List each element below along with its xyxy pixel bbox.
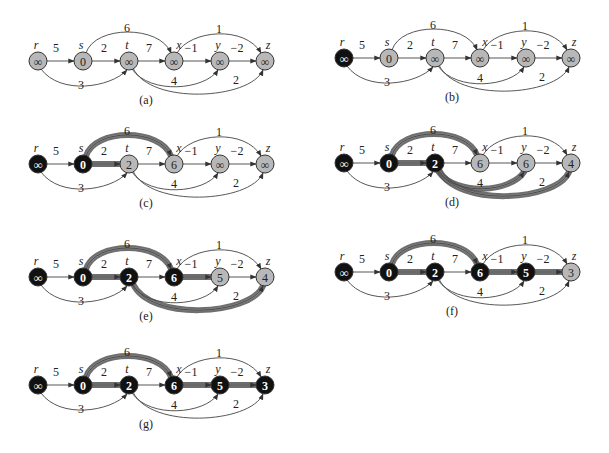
panel-caption: (g) xyxy=(139,417,153,431)
node-r-distance: ∞ xyxy=(340,157,349,171)
node-t-distance: 2 xyxy=(432,266,438,280)
node-z-label: z xyxy=(571,140,577,154)
edge-weight-r-t: 3 xyxy=(384,75,390,89)
edge-weight-t-z: 2 xyxy=(233,176,239,190)
node-s-label: s xyxy=(385,249,390,263)
shaded-edge-highlight xyxy=(133,284,263,310)
node-s-distance: 0 xyxy=(80,379,86,393)
edge-weight-t-x: 7 xyxy=(452,38,458,52)
node-r-distance: ∞ xyxy=(340,52,349,66)
panel-caption: (f) xyxy=(446,304,458,318)
node-z-distance: 3 xyxy=(262,379,268,393)
node-s-label: s xyxy=(79,141,84,155)
node-z-distance: 3 xyxy=(568,266,574,280)
node-y-label: y xyxy=(520,35,527,49)
edge-r-t xyxy=(41,393,127,410)
edge-weight-t-y: 4 xyxy=(477,285,483,299)
node-r-label: r xyxy=(34,141,39,155)
edge-weight-s-t: 2 xyxy=(407,252,413,266)
node-s-label: s xyxy=(79,362,84,376)
node-x-label: x xyxy=(175,254,182,268)
dag-shortest-paths-figure: 5326742−11−2∞r0s∞t∞x∞y∞z(a)5326742−11−2∞… xyxy=(0,0,609,453)
node-x-label: x xyxy=(175,38,182,52)
node-t-distance: 2 xyxy=(432,157,438,171)
node-x-distance: ∞ xyxy=(170,55,179,69)
node-r-label: r xyxy=(34,362,39,376)
edge-r-t xyxy=(347,171,433,188)
edge-weight-s-t: 2 xyxy=(101,41,107,55)
node-t-distance: 2 xyxy=(126,271,132,285)
panel-caption: (e) xyxy=(139,309,152,323)
edge-weight-y-z: −2 xyxy=(231,41,244,55)
node-r-distance: ∞ xyxy=(34,271,43,285)
edge-weight-r-s: 5 xyxy=(53,144,59,158)
edge-weight-t-x: 7 xyxy=(146,144,152,158)
panel-caption: (c) xyxy=(139,196,152,210)
node-r-label: r xyxy=(340,140,345,154)
edge-weight-y-z: −2 xyxy=(231,144,244,158)
edge-weight-x-z: 1 xyxy=(522,233,528,247)
shaded-edge-t-z xyxy=(133,284,263,310)
node-y-label: y xyxy=(520,249,527,263)
node-x-label: x xyxy=(481,35,488,49)
node-z-label: z xyxy=(265,38,271,52)
node-t-label: t xyxy=(125,254,129,268)
node-x-label: x xyxy=(175,362,182,376)
edge-weight-s-x: 6 xyxy=(124,124,130,138)
node-y-distance: 5 xyxy=(523,266,529,280)
edge-weight-t-z: 2 xyxy=(539,175,545,189)
node-z-distance: 4 xyxy=(568,157,574,171)
edge-r-t xyxy=(41,172,127,189)
node-y-label: y xyxy=(214,254,221,268)
edge-weight-s-x: 6 xyxy=(124,21,130,35)
node-r-label: r xyxy=(34,38,39,52)
edge-t-z xyxy=(133,171,263,197)
edge-weight-t-y: 4 xyxy=(477,71,483,85)
node-r-distance: ∞ xyxy=(34,158,43,172)
node-s-distance: 0 xyxy=(80,158,86,172)
node-t-label: t xyxy=(431,35,435,49)
edge-r-t xyxy=(347,280,433,297)
node-x-label: x xyxy=(481,249,488,263)
panel-a: 5326742−11−2∞r0s∞t∞x∞y∞z(a) xyxy=(29,21,274,107)
edge-t-z xyxy=(439,65,569,91)
node-z-label: z xyxy=(265,362,271,376)
edge-weight-y-z: −2 xyxy=(231,257,244,271)
edge-weight-r-s: 5 xyxy=(359,143,365,157)
node-y-label: y xyxy=(214,362,221,376)
node-s-label: s xyxy=(385,35,390,49)
edge-t-z xyxy=(439,279,569,305)
edge-weight-x-z: 1 xyxy=(522,124,528,138)
node-t-distance: ∞ xyxy=(125,55,134,69)
node-x-label: x xyxy=(481,140,488,154)
panel-caption: (d) xyxy=(445,195,459,209)
node-x-distance: 6 xyxy=(477,266,483,280)
node-z-label: z xyxy=(265,141,271,155)
edge-weight-s-x: 6 xyxy=(430,18,436,32)
node-s-distance: 0 xyxy=(386,266,392,280)
node-x-distance: 6 xyxy=(171,158,177,172)
edge-weight-s-t: 2 xyxy=(101,257,107,271)
edge-weight-t-y: 4 xyxy=(171,290,177,304)
edge-weight-x-z: 1 xyxy=(216,238,222,252)
edge-weight-s-t: 2 xyxy=(101,144,107,158)
node-x-distance: 6 xyxy=(477,157,483,171)
edge-weight-r-t: 3 xyxy=(78,402,84,416)
edge-weight-r-t: 3 xyxy=(78,294,84,308)
edge-weight-t-y: 4 xyxy=(171,177,177,191)
edge-weight-t-y: 4 xyxy=(171,398,177,412)
node-z-distance: ∞ xyxy=(261,55,270,69)
node-t-label: t xyxy=(125,141,129,155)
node-s-distance: 0 xyxy=(386,157,392,171)
edge-weight-r-s: 5 xyxy=(53,257,59,271)
node-r-distance: ∞ xyxy=(34,55,43,69)
node-z-distance: 4 xyxy=(262,271,268,285)
node-r-label: r xyxy=(34,254,39,268)
panel-b: 5326742−11−2∞r0s∞t∞x∞y∞z(b) xyxy=(335,18,580,104)
node-t-label: t xyxy=(431,249,435,263)
node-r-label: r xyxy=(340,249,345,263)
node-s-label: s xyxy=(79,38,84,52)
node-y-distance: 6 xyxy=(523,157,529,171)
edge-weight-s-t: 2 xyxy=(101,365,107,379)
node-r-distance: ∞ xyxy=(340,266,349,280)
